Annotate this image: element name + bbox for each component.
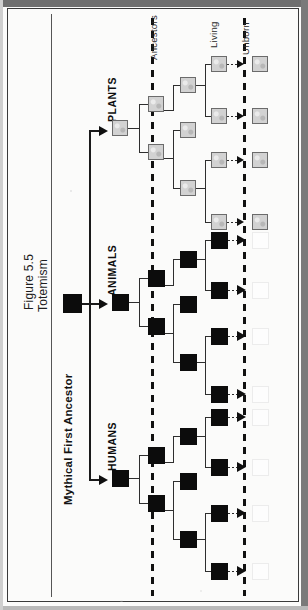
animals-line-g2a-drop [173,259,174,286]
humans-node-living-2 [211,459,228,476]
plants-line-g1-out [128,128,139,129]
humans-line-g2a-out [165,462,173,463]
plants-line-g2b-out [164,158,173,159]
zone-label-unborn: Unborn [240,22,251,55]
branch-title-humans: HUMANS [106,422,118,471]
plants-line-g3a-split [205,64,206,116]
humans-node-g3c [180,531,197,548]
humans-node-living-1 [211,409,228,426]
humans-line-g3a-split [205,417,206,467]
animals-node-unborn-2 [252,282,269,299]
humans-node-g1 [112,470,129,487]
animals-line-g3b-in [173,304,180,305]
humans-node-unborn-2 [252,459,269,476]
figure-caption-title: Totemism [36,259,50,312]
animals-node-g3a [180,251,197,268]
animals-stub-u3 [228,336,237,337]
plants-node-unborn-2 [252,108,268,124]
plants-node-g3b [180,122,196,138]
animals-arrow-u3 [237,331,246,341]
plants-node-g1 [112,120,128,136]
animals-node-g3c [180,354,197,371]
plants-line-g2a [139,104,148,105]
humans-line-g3a-out [197,436,205,437]
arrow-to-humans [99,475,108,485]
plants-arrow-u4 [237,218,244,226]
plants-node-living-2 [211,108,227,124]
scan-speckle [70,190,72,192]
animals-line-g3c-split [205,336,206,394]
plants-arrow-u1 [237,60,244,68]
humans-stub-u4 [228,571,237,572]
animals-node-living-3 [211,328,228,345]
plants-node-g2b [148,144,164,160]
animals-line-g2a-out [165,285,173,286]
humans-line-g3c-out [197,539,205,540]
zone-label-ancestors: Ancestors [148,15,159,60]
scan-speckle [200,590,202,592]
caption-divider-rule [51,14,52,597]
root-leader-bus [89,130,91,480]
root-node-label: Mythical First Ancestor [62,374,74,505]
humans-line-g3b-in [173,481,180,482]
plants-line-g3c-in [173,188,180,189]
plants-line-g2b [139,152,148,153]
animals-node-unborn-3 [252,328,269,345]
humans-line-g2a-drop [173,436,174,463]
plants-line-g2b-split [173,130,174,188]
plants-line-g2a-drop [173,85,174,111]
humans-arrow-u3 [237,508,246,518]
plants-node-living-3 [211,152,227,168]
humans-stub-u3 [228,513,237,514]
animals-node-unborn-1 [252,232,269,249]
humans-line-g3a-in [173,436,180,437]
humans-stub-u1 [228,417,237,418]
plants-node-g3c [180,180,196,196]
plants-node-living-4 [211,214,227,230]
animals-node-unborn-4 [252,386,269,403]
plants-line-g3a-out [196,85,205,86]
animals-stub-u2 [228,290,237,291]
zone-label-living: Living [208,21,219,48]
leader-to-plants [89,130,99,132]
arrow-to-animals [99,299,108,309]
animals-stub-u4 [228,394,237,395]
plants-node-g2a [148,96,164,112]
plants-stub-u1 [227,64,237,65]
animals-node-g1 [112,294,129,311]
plants-node-g3a [180,77,196,93]
animals-arrow-u1 [237,235,246,245]
animals-node-g3b [180,296,197,313]
scan-edge-bottom [0,606,308,610]
scan-edge-right [301,0,308,610]
plants-node-unborn-1 [252,56,268,72]
plants-line-g3c-out [196,188,205,189]
arrow-to-plants [99,126,108,136]
humans-arrow-u4 [237,566,246,576]
animals-node-living-2 [211,282,228,299]
plants-node-living-1 [211,56,227,72]
plants-stub-u2 [227,116,237,117]
scan-speckle [120,600,123,602]
humans-line-g3c-split [205,513,206,571]
plants-line-g3a-in [173,85,180,86]
plants-arrow-u2 [237,112,244,120]
humans-line-g2a [139,455,148,456]
humans-line-g3c-in [173,539,180,540]
leader-to-humans [89,479,99,481]
animals-node-living-4 [211,386,228,403]
animals-line-g1-split [139,278,140,326]
animals-line-g3a-split [205,240,206,290]
leader-to-animals [82,303,99,305]
branch-title-plants: PLANTS [106,77,118,122]
humans-node-living-4 [211,563,228,580]
plants-line-g3b-in [173,130,180,131]
animals-line-g2b-split [173,304,174,362]
root-node [63,294,82,313]
plants-node-unborn-3 [252,152,268,168]
plants-line-g1-split [139,104,140,152]
plants-node-unborn-4 [252,214,268,230]
plants-arrow-u3 [237,156,244,164]
humans-node-living-3 [211,505,228,522]
plants-stub-u4 [227,222,237,223]
